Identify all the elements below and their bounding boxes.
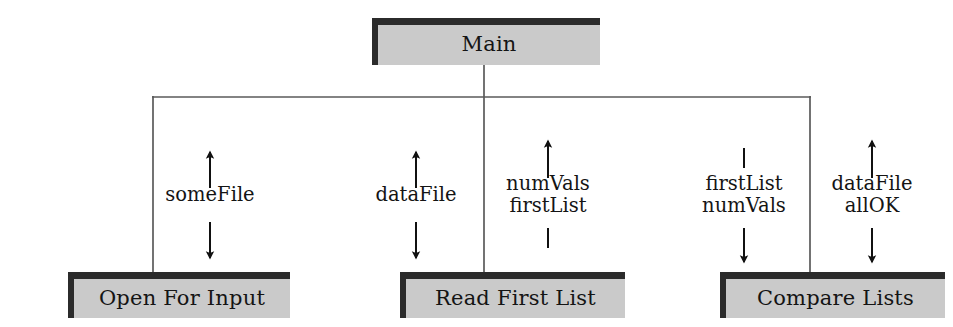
module-box-main[interactable]: Main — [372, 18, 600, 65]
module-label-open-for-input: Open For Input — [99, 286, 265, 310]
couple-label-numvals-firstlist: numVals firstList — [506, 173, 590, 217]
module-box-read-first-list[interactable]: Read First List — [400, 272, 625, 318]
couple-label-somefile: someFile — [165, 184, 254, 206]
couple-text-firstlist-numvals-1: firstList — [705, 173, 782, 195]
couple-text-datafile-allok-2: allOK — [845, 195, 900, 217]
couple-text-numvals-firstlist-2: firstList — [509, 195, 586, 217]
module-label-compare-lists: Compare Lists — [757, 286, 914, 310]
module-label-main: Main — [461, 32, 516, 56]
structure-chart-diagram: Main Open For Input Read First List Comp… — [0, 0, 953, 327]
module-box-compare-lists[interactable]: Compare Lists — [720, 272, 945, 318]
couple-label-firstlist-numvals: firstList numVals — [702, 173, 786, 217]
couple-label-datafile: dataFile — [375, 184, 456, 206]
couple-label-datafile-allok: dataFile allOK — [831, 173, 912, 217]
couple-text-datafile-1: dataFile — [375, 184, 456, 206]
module-box-open-for-input[interactable]: Open For Input — [68, 272, 290, 318]
couple-text-firstlist-numvals-2: numVals — [702, 195, 786, 217]
couple-text-numvals-firstlist-1: numVals — [506, 173, 590, 195]
couple-text-somefile-1: someFile — [165, 184, 254, 206]
couple-text-datafile-allok-1: dataFile — [831, 173, 912, 195]
module-label-read-first-list: Read First List — [435, 286, 596, 310]
